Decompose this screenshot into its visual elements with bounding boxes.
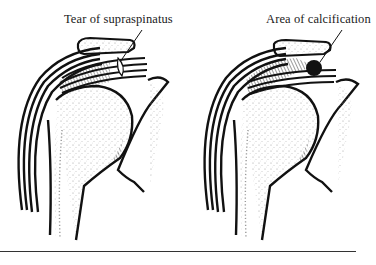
label-area-of-calcification: Area of calcification: [266, 12, 371, 27]
bottom-divider-line: [0, 251, 356, 252]
panel-supraspinatus-tear: Tear of supraspinatus: [0, 0, 188, 250]
label-tear-of-supraspinatus: Tear of supraspinatus: [64, 12, 173, 27]
panel-calcification: Area of calcification: [186, 0, 374, 250]
shoulder-illustration-tear: [0, 0, 188, 250]
shoulder-pathology-figure: Tear of supraspinatus: [0, 0, 376, 265]
calcification-deposit: [306, 60, 322, 76]
shoulder-illustration-calcification: [186, 0, 374, 250]
